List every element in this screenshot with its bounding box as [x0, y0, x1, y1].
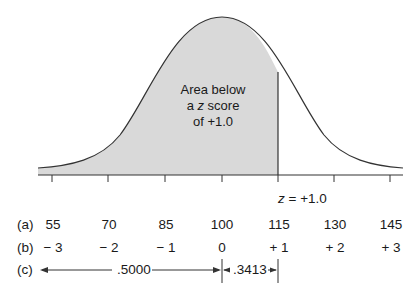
row-c-areas: (c) .5000 .3413: [17, 259, 278, 283]
annotation-line-2: a z score: [187, 98, 240, 113]
raw-score: 130: [324, 217, 347, 232]
normal-curve-figure: Area below a z score of +1.0 z = +1.0 (a…: [0, 0, 416, 299]
axis-ticks: [52, 175, 390, 182]
z-score: − 2: [99, 240, 118, 255]
z-score: 0: [218, 240, 226, 255]
arrow-left-head-icon: [40, 267, 48, 273]
annotation-line-1: Area below: [180, 82, 246, 97]
row-b-z-scores: (b) − 3 − 2 − 1 0 + 1 + 2 + 3: [17, 240, 401, 255]
z-score: + 2: [325, 240, 344, 255]
raw-score: 85: [158, 217, 173, 232]
z-score: + 1: [269, 240, 288, 255]
row-a-label: (a): [17, 217, 34, 232]
arrow-right-head-icon: [270, 268, 277, 273]
annotation-line-3: of +1.0: [193, 114, 233, 129]
left-area-value: .5000: [117, 262, 151, 277]
raw-score: 115: [268, 217, 290, 232]
right-area-value: .3413: [233, 262, 267, 277]
row-a-raw-scores: (a) 55 70 85 100 115 130 145: [17, 217, 402, 232]
z-score: − 1: [156, 240, 175, 255]
z-score: + 3: [381, 240, 400, 255]
row-b-label: (b): [17, 240, 34, 255]
raw-score: 100: [211, 217, 234, 232]
row-c-label: (c): [17, 262, 33, 277]
raw-score: 70: [101, 217, 116, 232]
z-marker-label: z = +1.0: [277, 191, 327, 206]
arrow-left-head-icon: [223, 268, 230, 273]
raw-score: 145: [380, 217, 403, 232]
raw-score: 55: [45, 217, 60, 232]
z-score: − 3: [43, 240, 62, 255]
arrow-right-head-icon: [213, 267, 221, 273]
